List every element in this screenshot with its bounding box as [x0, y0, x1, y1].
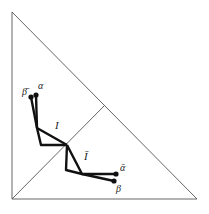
label-I-bar: Ī	[83, 150, 89, 162]
lower-path	[66, 145, 116, 181]
beta-bar-point	[28, 94, 33, 99]
label-beta-bar: β̄	[21, 86, 30, 97]
label-alpha-bar: ᾱ	[120, 162, 126, 173]
alpha-point	[33, 92, 38, 97]
upper-path	[31, 95, 67, 145]
alpha-bar-point	[113, 171, 118, 176]
triangle-diagram: β̄ α I Ī ᾱ β	[0, 0, 209, 214]
label-alpha: α	[38, 80, 44, 91]
label-beta: β	[115, 183, 121, 194]
label-I: I	[54, 119, 60, 131]
